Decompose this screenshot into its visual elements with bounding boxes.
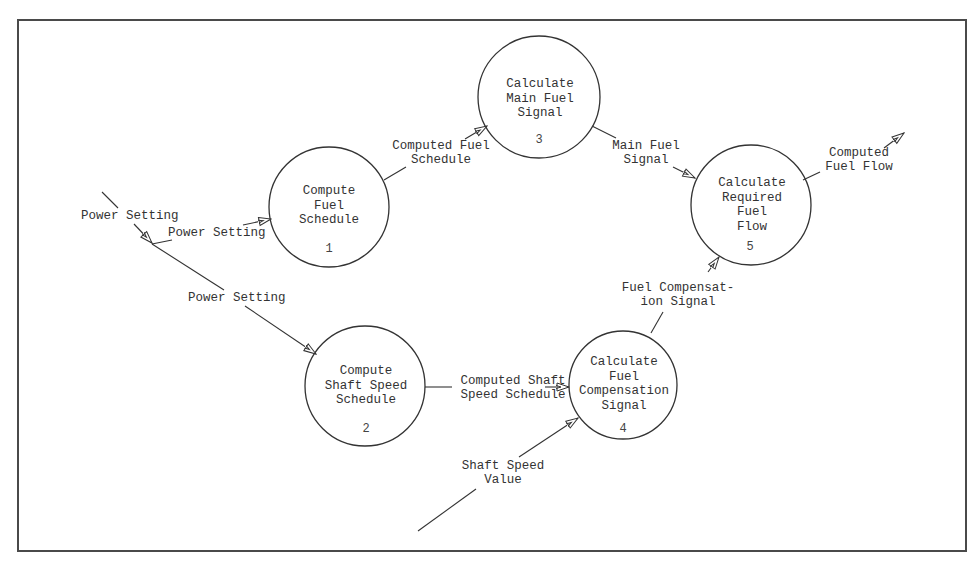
- flow-label-comp-shaft-sched: Computed Shaft Speed Schedule: [453, 374, 573, 402]
- flow-label-ext-power: Power Setting: [81, 209, 179, 223]
- flow-ext-power-arrow-line: [134, 224, 152, 243]
- process-2-label: Compute Shaft Speed Schedule: [320, 364, 412, 408]
- flow-label-main-fuel-signal: Main Fuel Signal: [608, 139, 684, 167]
- process-2-number: 2: [356, 422, 376, 436]
- process-5-number: 5: [740, 240, 760, 254]
- flow-label-comp-fuel-sched: Computed Fuel Schedule: [386, 139, 496, 167]
- process-5-label: Calculate Required Fuel Flow: [710, 176, 794, 234]
- flow-ext-power-line: [102, 192, 118, 208]
- process-1-label: Compute Fuel Schedule: [289, 184, 369, 228]
- flow-main-fuel-arrow: [673, 167, 695, 178]
- flow-main-fuel-line: [592, 126, 616, 138]
- process-3-label: Calculate Main Fuel Signal: [499, 77, 581, 121]
- process-3-number: 3: [529, 133, 549, 147]
- flow-power-to-1-line-a: [152, 240, 172, 244]
- flow-power-to-2-line-a: [152, 244, 224, 290]
- process-4-number: 4: [613, 422, 633, 436]
- flow-shaft-speed-line: [418, 489, 476, 531]
- flow-label-fuel-comp-signal: Fuel Compensat- ion Signal: [620, 281, 736, 309]
- flow-comp-fuel-sched-arrow: [465, 126, 487, 139]
- flow-label-shaft-speed-value: Shaft Speed Value: [458, 459, 548, 487]
- flow-comp-fuel-flow-line: [803, 172, 820, 180]
- flow-label-power-to-1: Power Setting: [168, 226, 266, 240]
- process-1-number: 1: [319, 242, 339, 256]
- flow-fuel-comp-line: [651, 312, 663, 333]
- flow-power-to-2-line-b: [245, 306, 316, 354]
- flow-shaft-speed-arrow: [519, 418, 578, 457]
- flow-label-comp-fuel-flow: Computed Fuel Flow: [819, 146, 899, 174]
- flow-label-power-to-2: Power Setting: [188, 291, 286, 305]
- flow-comp-fuel-sched-line: [384, 167, 406, 180]
- process-4-label: Calculate Fuel Compensation Signal: [578, 355, 670, 413]
- flow-power-to-1-line-b: [243, 219, 271, 225]
- flow-fuel-comp-arrow: [708, 257, 719, 272]
